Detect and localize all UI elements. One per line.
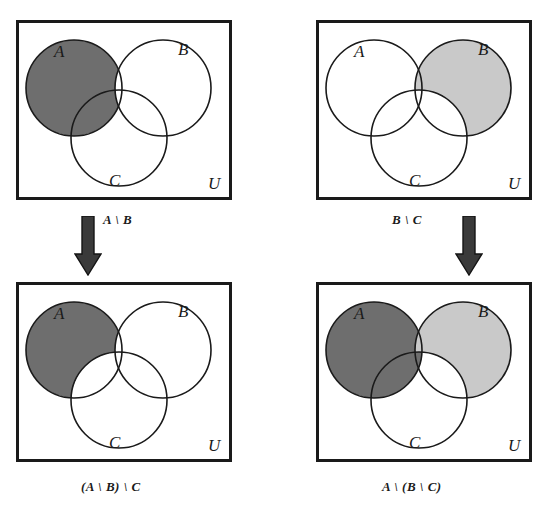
label-circle-b: B	[178, 40, 189, 59]
label-circle-c: C	[409, 433, 421, 452]
arrow-shape	[456, 216, 482, 275]
label-universe: U	[508, 436, 522, 455]
label-circle-b: B	[478, 40, 489, 59]
label-circle-c: C	[109, 433, 121, 452]
venn-panel-bottom-right: A B C U	[316, 282, 532, 462]
label-circle-c: C	[409, 171, 421, 190]
label-circle-c: C	[109, 171, 121, 190]
label-circle-a: A	[353, 42, 365, 61]
caption-bottom-left: (A \ B) \ C	[81, 479, 141, 495]
caption-top-right: B \ C	[392, 212, 422, 228]
label-circle-a: A	[53, 304, 65, 323]
label-circle-b: B	[178, 302, 189, 321]
caption-top-left: A \ B	[103, 212, 132, 228]
caption-bottom-right: A \ (B \ C)	[382, 479, 442, 495]
venn-panel-top-left: A B C U	[16, 20, 232, 200]
venn-panel-top-right: A B C U	[316, 20, 532, 200]
venn-figure: A B C U A \ B	[0, 0, 552, 517]
label-universe: U	[508, 174, 522, 193]
arrow-shape	[75, 216, 101, 275]
label-circle-a: A	[53, 42, 65, 61]
label-universe: U	[208, 436, 222, 455]
label-universe: U	[208, 174, 222, 193]
down-arrow-left	[74, 216, 102, 280]
down-arrow-right	[455, 216, 483, 280]
label-circle-a: A	[353, 304, 365, 323]
venn-panel-bottom-left: A B C U	[16, 282, 232, 462]
label-circle-b: B	[478, 302, 489, 321]
